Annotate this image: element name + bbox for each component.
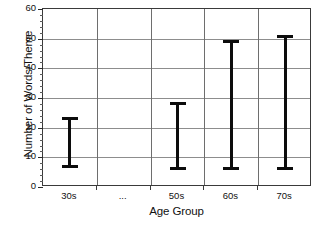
y-axis-tick-mark (38, 39, 43, 40)
error-bar-cap-upper (170, 102, 186, 105)
error-bar-cap-upper (223, 40, 239, 43)
error-bar (62, 117, 78, 168)
error-bar-cap-lower (277, 167, 293, 170)
y-axis-minor-tick (40, 45, 43, 46)
y-axis-tick-label: 50 (16, 33, 36, 43)
error-bar-stem (68, 117, 71, 168)
gridline-vertical (204, 9, 205, 185)
error-bar (223, 40, 239, 170)
y-axis-minor-tick (40, 27, 43, 28)
x-axis-title: Age Group (42, 205, 311, 217)
y-axis-tick-label: 60 (16, 3, 36, 13)
y-axis-minor-tick (40, 62, 43, 63)
x-axis-tick-mark (96, 186, 97, 190)
x-axis-tick-mark (203, 186, 204, 190)
y-axis-minor-tick (40, 74, 43, 75)
y-axis-minor-tick (40, 140, 43, 141)
error-bar (277, 35, 293, 171)
x-axis-tick-label: 50s (169, 190, 184, 201)
y-axis-minor-tick (40, 80, 43, 81)
error-bar-stem (230, 40, 233, 170)
error-bar (170, 102, 186, 170)
x-axis-tick-label: ... (119, 190, 127, 201)
error-bar-stem (176, 102, 179, 170)
y-axis-tick-mark (38, 187, 43, 188)
y-axis-tick-label: 10 (16, 152, 36, 162)
plot-area (42, 8, 311, 186)
x-axis-tick-label: 70s (276, 190, 291, 201)
y-axis-minor-tick (40, 110, 43, 111)
y-axis-minor-tick (40, 151, 43, 152)
y-axis-minor-tick (40, 92, 43, 93)
y-axis-minor-tick (40, 86, 43, 87)
y-axis-minor-tick (40, 175, 43, 176)
y-axis-minor-tick (40, 57, 43, 58)
y-axis-minor-tick (40, 163, 43, 164)
x-axis-tick-mark (257, 186, 258, 190)
y-axis-minor-tick (40, 116, 43, 117)
gridline-vertical (97, 9, 98, 185)
error-bar-stem (284, 35, 287, 171)
x-axis-tick-mark (150, 186, 151, 190)
gridline-horizontal (43, 68, 310, 69)
error-bar-cap-lower (170, 167, 186, 170)
gridline-horizontal (43, 98, 310, 99)
y-axis-minor-tick (40, 122, 43, 123)
y-axis-minor-tick (40, 104, 43, 105)
error-bar-cap-lower (223, 167, 239, 170)
y-axis-minor-tick (40, 51, 43, 52)
error-bar-cap-lower (62, 165, 78, 168)
y-axis-minor-tick (40, 181, 43, 182)
y-axis-tick-mark (38, 98, 43, 99)
x-axis-tick-label: 60s (223, 190, 238, 201)
gridline-vertical (151, 9, 152, 185)
y-axis-tick-label: 20 (16, 122, 36, 132)
chart-figure: Number of Words/Theme 0102030405060 Age … (0, 0, 317, 225)
y-axis-tick-labels: 0102030405060 (16, 0, 36, 225)
error-bar-cap-upper (62, 117, 78, 120)
y-axis-minor-tick (40, 33, 43, 34)
y-axis-tick-mark (38, 157, 43, 158)
y-axis-minor-tick (40, 146, 43, 147)
y-axis-minor-tick (40, 15, 43, 16)
x-axis-tick-label: 30s (61, 190, 76, 201)
y-axis-minor-tick (40, 134, 43, 135)
y-axis-tick-mark (38, 128, 43, 129)
y-axis-tick-label: 30 (16, 92, 36, 102)
y-axis-tick-label: 40 (16, 63, 36, 73)
y-axis-tick-label: 0 (16, 181, 36, 191)
y-axis-minor-tick (40, 169, 43, 170)
gridline-vertical (258, 9, 259, 185)
y-axis-tick-mark (38, 9, 43, 10)
y-axis-minor-tick (40, 21, 43, 22)
error-bar-cap-upper (277, 35, 293, 38)
gridline-horizontal (43, 39, 310, 40)
y-axis-tick-mark (38, 68, 43, 69)
